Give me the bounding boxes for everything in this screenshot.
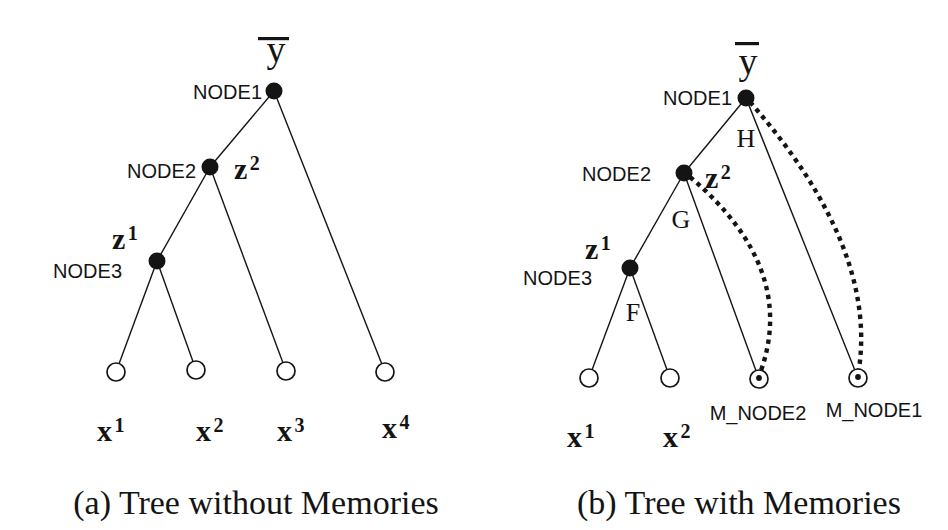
root-var-overline: [735, 42, 759, 45]
node-label: NODE1: [193, 81, 262, 103]
leaf-node-circle: [376, 363, 394, 381]
panel-caption: (b) Tree with Memories: [577, 484, 901, 522]
node-label: NODE3: [523, 267, 592, 289]
edge-function-label: H: [737, 124, 756, 153]
node-label: NODE3: [53, 260, 122, 282]
figure-tree-memories: x1x2x3x4NODE1NODE2NODE3z2z1y(a) Tree wit…: [0, 0, 948, 530]
internal-node-dot: [266, 83, 283, 100]
internal-node-dot: [202, 159, 219, 176]
edge-function-label: F: [626, 298, 640, 327]
root-var-label: y: [267, 28, 286, 70]
memory-node-label: M_NODE1: [826, 399, 923, 422]
figure-background: [0, 0, 948, 530]
panel-caption: (a) Tree without Memories: [73, 484, 438, 522]
leaf-node-circle: [277, 362, 295, 380]
root-var-label: y: [739, 40, 758, 82]
leaf-node-circle: [580, 369, 598, 387]
root-var-overline: [258, 37, 289, 40]
internal-node-dot: [738, 90, 755, 107]
leaf-node-circle: [107, 363, 125, 381]
node-label: NODE1: [663, 87, 732, 109]
internal-node-dot: [622, 260, 639, 277]
leaf-node-circle: [661, 369, 679, 387]
memory-dot: [756, 375, 762, 381]
memory-dot: [855, 374, 861, 380]
memory-node-label: M_NODE2: [710, 402, 807, 425]
internal-node-dot: [149, 253, 166, 270]
node-label: NODE2: [582, 163, 651, 185]
node-label: NODE2: [127, 160, 196, 182]
internal-node-dot: [676, 165, 693, 182]
edge-function-label: G: [672, 205, 691, 234]
leaf-node-circle: [187, 361, 205, 379]
tree-diagram: x1x2x3x4NODE1NODE2NODE3z2z1y(a) Tree wit…: [0, 0, 948, 530]
